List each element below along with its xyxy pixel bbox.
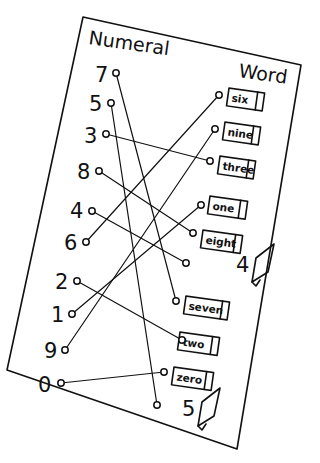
answer-numeral-4: 4 bbox=[236, 253, 249, 277]
numeral-5: 5 bbox=[89, 92, 102, 116]
numeral-dot-2[interactable] bbox=[74, 278, 80, 284]
numeral-dot-4[interactable] bbox=[89, 208, 95, 214]
word-card-two[interactable]: two bbox=[177, 332, 219, 355]
numeral-1: 1 bbox=[51, 303, 64, 327]
word-tab-divider bbox=[255, 92, 258, 110]
numeral-dot-1[interactable] bbox=[69, 311, 75, 317]
numeral-dot-7[interactable] bbox=[113, 70, 119, 76]
connection-line bbox=[77, 281, 182, 340]
connection-line bbox=[116, 73, 176, 301]
word-dot-three[interactable] bbox=[207, 158, 213, 164]
numeral-0: 0 bbox=[38, 373, 51, 397]
word-label: one bbox=[212, 200, 235, 215]
word-label: two bbox=[182, 336, 205, 351]
word-label: six bbox=[231, 92, 249, 106]
answer-dot-4[interactable] bbox=[183, 260, 189, 266]
numeral-dot-0[interactable] bbox=[58, 380, 64, 386]
answer-numeral-5: 5 bbox=[182, 397, 195, 421]
word-label: eight bbox=[205, 234, 237, 250]
word-label: nine bbox=[227, 126, 254, 141]
numeral-9: 9 bbox=[44, 339, 57, 363]
word-label: seven bbox=[188, 300, 224, 317]
connection-line bbox=[106, 134, 210, 161]
numeral-6: 6 bbox=[64, 231, 77, 255]
answer-dot-5[interactable] bbox=[154, 402, 160, 408]
numeral-dot-9[interactable] bbox=[62, 347, 68, 353]
word-tab-divider bbox=[210, 337, 213, 355]
word-card-six[interactable]: six bbox=[226, 88, 264, 111]
word-dot-two[interactable] bbox=[179, 337, 185, 343]
numeral-header: Numeral bbox=[87, 26, 170, 59]
connection-line bbox=[61, 372, 164, 383]
word-dot-one[interactable] bbox=[198, 202, 204, 208]
word-dot-six[interactable] bbox=[216, 92, 222, 98]
connection-line bbox=[86, 95, 219, 242]
word-card-three[interactable]: three bbox=[217, 156, 255, 179]
word-label: zero bbox=[176, 371, 203, 386]
word-card-eight[interactable]: eight bbox=[200, 230, 242, 253]
numeral-dot-6[interactable] bbox=[83, 239, 89, 245]
word-dot-eight[interactable] bbox=[190, 230, 196, 236]
word-tab-divider bbox=[204, 372, 207, 390]
numeral-dot-3[interactable] bbox=[103, 131, 109, 137]
folded-flap-icon[interactable] bbox=[198, 388, 220, 426]
numeral-7: 7 bbox=[95, 63, 108, 87]
numeral-dot-8[interactable] bbox=[96, 168, 102, 174]
numeral-3: 3 bbox=[84, 124, 97, 148]
numeral-4: 4 bbox=[70, 199, 83, 223]
word-tab-divider bbox=[238, 200, 241, 218]
word-card-zero[interactable]: zero bbox=[171, 367, 213, 390]
connection-line bbox=[111, 103, 157, 405]
numeral-column: 7538462190 bbox=[38, 63, 119, 397]
matching-worksheet: Numeral Word 7538462190 sixninethreeonee… bbox=[0, 0, 320, 463]
word-card-seven[interactable]: seven bbox=[183, 296, 229, 320]
numeral-8: 8 bbox=[77, 160, 90, 184]
word-dot-nine[interactable] bbox=[212, 126, 218, 132]
word-card-nine[interactable]: nine bbox=[222, 122, 260, 145]
word-card-one[interactable]: one bbox=[207, 196, 247, 219]
word-dot-zero[interactable] bbox=[161, 369, 167, 375]
numeral-dot-5[interactable] bbox=[108, 100, 114, 106]
word-header: Word bbox=[237, 59, 288, 88]
connection-line bbox=[72, 205, 201, 314]
word-dot-seven[interactable] bbox=[173, 298, 179, 304]
numeral-2: 2 bbox=[55, 270, 68, 294]
word-label: three bbox=[222, 160, 255, 176]
